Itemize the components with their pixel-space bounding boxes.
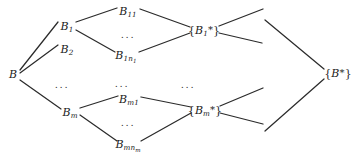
edge-b-to-b1 xyxy=(20,22,58,70)
node-b-root-text: B xyxy=(9,68,17,81)
node-b-star-close-brace: } xyxy=(345,67,352,80)
node-b2-subscript: 2 xyxy=(69,48,74,57)
node-b1n1-sub-subscript: 1 xyxy=(133,57,137,63)
node-bm-base: B xyxy=(62,106,70,119)
node-b11-base: B xyxy=(119,5,127,18)
node-bmnm-sub-subscript: m xyxy=(135,146,140,152)
edge-bmstar-lower-stub xyxy=(220,113,263,124)
edge-bm-to-bmnm xyxy=(80,115,117,141)
node-b-root: B xyxy=(9,69,17,80)
edge-bmstar-upper-stub xyxy=(220,88,263,106)
edge-b1-to-b1n1 xyxy=(76,30,115,52)
diagram-edges-layer xyxy=(0,0,359,155)
edge-b-to-b2 xyxy=(20,45,58,73)
edge-b1n1-to-b1star xyxy=(139,33,190,52)
node-b-star-set: {B*} xyxy=(324,68,352,79)
edge-b1-to-b11 xyxy=(76,8,117,22)
node-b2: B2 xyxy=(61,44,74,55)
ellipsis-col2-lower: ... xyxy=(121,117,135,128)
node-bm-subscript: m xyxy=(71,111,78,120)
node-bm-star-asterisk: * xyxy=(210,104,215,115)
node-bmnm-subscript-text: mn xyxy=(124,143,136,152)
node-b11-subscript: 11 xyxy=(127,10,136,19)
node-bm: Bm xyxy=(62,107,77,118)
node-bmnm-base: B xyxy=(115,138,123,151)
ellipsis-col3: ... xyxy=(181,79,195,90)
node-b1: B1 xyxy=(61,21,74,32)
node-b1n1: B1n1 xyxy=(115,50,136,61)
node-b1-star-asterisk: * xyxy=(208,24,213,35)
edge-bmnm-to-bmstar xyxy=(141,113,191,141)
edge-lower-to-bstar xyxy=(265,79,324,131)
tree-diagram: B B1 B2 Bm B11 B1n1 Bm1 Bmnm {B1*} {Bm*}… xyxy=(0,0,359,155)
node-b1-star-set: {B1*} xyxy=(188,25,220,36)
ellipsis-col2-upper: ... xyxy=(121,29,135,40)
node-bm1: Bm1 xyxy=(119,94,139,105)
edge-b11-to-b1star xyxy=(140,9,190,27)
node-b-star-asterisk: * xyxy=(340,67,345,78)
node-bm-star-set: {Bm*} xyxy=(188,105,222,116)
edge-b1star-lower-stub xyxy=(219,33,262,43)
node-bmnm-subscript: mnm xyxy=(124,143,141,152)
edge-bm-to-bm1 xyxy=(80,96,118,108)
node-b1n1-subscript: 1n1 xyxy=(124,54,137,63)
ellipsis-col1: ... xyxy=(55,79,69,90)
node-b1-star-close-brace: } xyxy=(213,24,220,37)
node-bmnm: Bmnm xyxy=(115,139,140,150)
node-b1n1-base: B xyxy=(115,49,123,62)
node-bm1-base: B xyxy=(119,93,127,106)
edge-b1star-upper-stub xyxy=(219,9,263,26)
edge-upper-to-bstar xyxy=(265,20,324,69)
ellipsis-col2-middle: ... xyxy=(115,78,129,89)
node-bm1-subscript: m1 xyxy=(127,98,139,107)
node-b2-base: B xyxy=(61,43,69,56)
node-b1-subscript: 1 xyxy=(69,25,74,34)
edge-bm1-to-bmstar xyxy=(141,97,191,107)
node-b1n1-subscript-text: 1n xyxy=(124,54,133,63)
node-b11: B11 xyxy=(119,6,137,17)
node-bm-star-close-brace: } xyxy=(215,104,222,117)
node-b1-base: B xyxy=(61,20,69,33)
